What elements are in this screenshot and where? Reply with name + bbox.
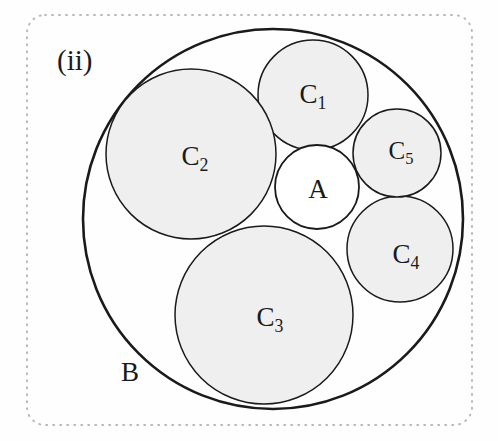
label-subscript-c3: 3 [275, 316, 284, 336]
label-subscript-c4: 4 [411, 253, 420, 273]
panel-label: (ii) [57, 44, 92, 77]
circles-layer [83, 29, 463, 409]
label-subscript-c5: 5 [405, 149, 413, 168]
figure-container: BC1C2C3C4C5A (ii) [0, 0, 498, 441]
circle-packing-diagram: BC1C2C3C4C5A (ii) [0, 0, 498, 441]
label-b: B [121, 357, 139, 387]
label-subscript-c1: 1 [318, 93, 327, 113]
label-a: A [308, 174, 328, 204]
label-subscript-c2: 2 [200, 155, 209, 175]
